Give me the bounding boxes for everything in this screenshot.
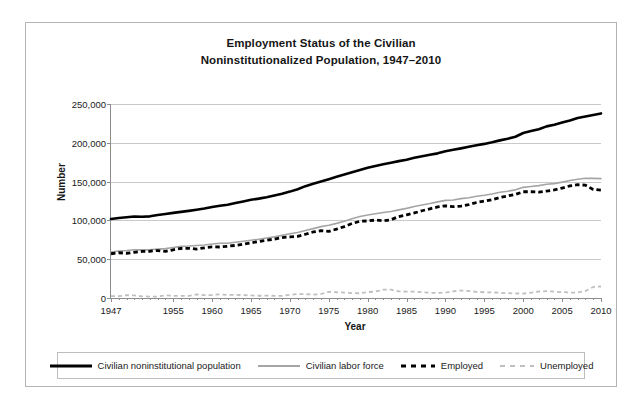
x-tick-mark bbox=[251, 298, 252, 302]
x-tick-mark-minor bbox=[399, 298, 400, 300]
x-tick-mark bbox=[562, 298, 563, 302]
x-tick-mark-minor bbox=[375, 298, 376, 300]
x-tick-label: 2010 bbox=[590, 305, 611, 316]
x-tick-mark-minor bbox=[220, 298, 221, 300]
x-tick-mark-minor bbox=[243, 298, 244, 300]
x-tick-mark-minor bbox=[321, 298, 322, 300]
y-tick-label: 100,000 bbox=[72, 215, 106, 226]
chart-title: Employment Status of the Civilian Nonins… bbox=[26, 35, 616, 69]
legend-item-label: Employed bbox=[441, 360, 483, 371]
x-tick-mark-minor bbox=[259, 298, 260, 300]
x-tick-mark-minor bbox=[554, 298, 555, 300]
x-tick-mark bbox=[445, 298, 446, 302]
x-tick-label: 1970 bbox=[279, 305, 300, 316]
x-tick-mark-minor bbox=[298, 298, 299, 300]
y-tick-label: 250,000 bbox=[72, 99, 106, 110]
x-tick-mark bbox=[407, 298, 408, 302]
x-tick-mark bbox=[111, 298, 112, 302]
x-tick-mark-minor bbox=[282, 298, 283, 300]
x-tick-mark-minor bbox=[477, 298, 478, 300]
y-tick-label: 200,000 bbox=[72, 137, 106, 148]
x-tick-mark bbox=[329, 298, 330, 302]
legend-item[interactable]: Civilian noninstitutional population bbox=[49, 360, 241, 371]
x-tick-mark bbox=[212, 298, 213, 302]
y-tick-label: 150,000 bbox=[72, 176, 106, 187]
chart-title-line-1: Employment Status of the Civilian bbox=[26, 35, 616, 52]
solid-thick-black-line-icon bbox=[49, 362, 93, 370]
legend-item[interactable]: Civilian labor force bbox=[257, 360, 384, 371]
legend-item[interactable]: Employed bbox=[400, 360, 483, 371]
x-tick-mark-minor bbox=[453, 298, 454, 300]
x-tick-mark-minor bbox=[181, 298, 182, 300]
x-tick-label: 1985 bbox=[396, 305, 417, 316]
x-tick-mark-minor bbox=[383, 298, 384, 300]
x-tick-label: 1980 bbox=[357, 305, 378, 316]
x-tick-mark-minor bbox=[134, 298, 135, 300]
plot-area: 050,000100,000150,000200,000250,000 1947… bbox=[110, 104, 601, 299]
x-tick-label: 2000 bbox=[513, 305, 534, 316]
x-tick-mark bbox=[484, 298, 485, 302]
x-tick-mark-minor bbox=[228, 298, 229, 300]
series-line-unemployed bbox=[111, 287, 601, 297]
legend-item-label: Civilian noninstitutional population bbox=[98, 360, 241, 371]
series-line-civilian-noninstitutional-population bbox=[111, 113, 601, 219]
x-tick-mark-minor bbox=[337, 298, 338, 300]
legend-item-label: Civilian labor force bbox=[306, 360, 384, 371]
x-tick-mark bbox=[601, 298, 602, 302]
x-tick-mark-minor bbox=[165, 298, 166, 300]
chart-figure: Employment Status of the Civilian Nonins… bbox=[25, 22, 617, 387]
x-tick-mark-minor bbox=[422, 298, 423, 300]
x-tick-label: 1955 bbox=[163, 305, 184, 316]
dashed-thick-black-line-icon bbox=[400, 362, 436, 370]
x-tick-mark-minor bbox=[267, 298, 268, 300]
x-tick-mark-minor bbox=[344, 298, 345, 300]
x-tick-label: 1960 bbox=[202, 305, 223, 316]
y-tick-label: 50,000 bbox=[77, 254, 106, 265]
x-tick-label: 1975 bbox=[318, 305, 339, 316]
x-tick-mark bbox=[290, 298, 291, 302]
series-line-employed bbox=[111, 185, 601, 254]
x-tick-mark-minor bbox=[204, 298, 205, 300]
x-tick-mark-minor bbox=[189, 298, 190, 300]
chart-title-line-2: Noninstitutionalized Population, 1947–20… bbox=[26, 52, 616, 69]
dashed-light-gray-line-icon bbox=[499, 362, 535, 370]
x-tick-mark-minor bbox=[119, 298, 120, 300]
x-tick-mark-minor bbox=[197, 298, 198, 300]
y-tick-label: 0 bbox=[101, 293, 106, 304]
x-tick-mark-minor bbox=[391, 298, 392, 300]
x-tick-mark-minor bbox=[461, 298, 462, 300]
x-tick-mark-minor bbox=[313, 298, 314, 300]
x-tick-mark-minor bbox=[274, 298, 275, 300]
data-series-group bbox=[111, 104, 601, 298]
x-tick-label: 1947 bbox=[100, 305, 121, 316]
x-tick-mark-minor bbox=[235, 298, 236, 300]
x-tick-mark-minor bbox=[469, 298, 470, 300]
y-axis-label: Number bbox=[56, 163, 67, 201]
x-tick-mark-minor bbox=[585, 298, 586, 300]
x-tick-mark bbox=[523, 298, 524, 302]
x-tick-mark-minor bbox=[578, 298, 579, 300]
x-tick-mark-minor bbox=[360, 298, 361, 300]
x-tick-label: 2005 bbox=[552, 305, 573, 316]
x-tick-mark bbox=[173, 298, 174, 302]
x-tick-mark-minor bbox=[305, 298, 306, 300]
x-tick-mark-minor bbox=[570, 298, 571, 300]
x-tick-mark bbox=[368, 298, 369, 302]
x-tick-label: 1990 bbox=[435, 305, 456, 316]
x-tick-mark-minor bbox=[539, 298, 540, 300]
x-tick-mark-minor bbox=[531, 298, 532, 300]
x-tick-mark-minor bbox=[127, 298, 128, 300]
legend-item[interactable]: Unemployed bbox=[499, 360, 593, 371]
x-tick-label: 1965 bbox=[240, 305, 261, 316]
x-axis-label: Year bbox=[110, 321, 600, 332]
x-tick-mark-minor bbox=[352, 298, 353, 300]
series-line-civilian-labor-force bbox=[111, 178, 601, 252]
x-tick-mark-minor bbox=[414, 298, 415, 300]
x-tick-mark-minor bbox=[500, 298, 501, 300]
x-tick-mark-minor bbox=[547, 298, 548, 300]
x-tick-label: 1995 bbox=[474, 305, 495, 316]
x-tick-mark-minor bbox=[158, 298, 159, 300]
plot-area-wrapper: 050,000100,000150,000200,000250,000 1947… bbox=[110, 104, 600, 298]
x-tick-mark-minor bbox=[150, 298, 151, 300]
x-tick-mark-minor bbox=[142, 298, 143, 300]
